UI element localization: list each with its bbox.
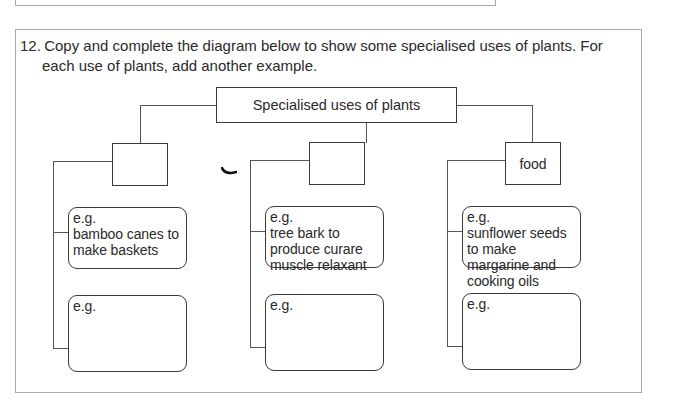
connector-root-left-v xyxy=(140,105,141,143)
example-box-1-2[interactable]: e.g. xyxy=(68,295,187,372)
example-text: sunflower seeds to make margarine and co… xyxy=(467,225,580,289)
question-number: 12. xyxy=(20,36,40,56)
question-line-1: 12. Copy and complete the diagram below … xyxy=(20,36,632,56)
question-prompt: 12. Copy and complete the diagram below … xyxy=(20,36,632,76)
example-text: tree bark to produce curare muscle relax… xyxy=(270,225,383,273)
example-prefix: e.g. xyxy=(467,296,580,312)
example-prefix: e.g. xyxy=(73,298,186,314)
question-line-2: each use of plants, add another example. xyxy=(20,56,632,76)
category-box-food: food xyxy=(505,142,561,185)
category-box-2[interactable] xyxy=(309,142,365,185)
connector-right-ex2 xyxy=(447,346,462,347)
connector-left-spine-top xyxy=(53,161,112,162)
connector-root-middle-v xyxy=(366,123,367,143)
connector-right-spine-top xyxy=(447,160,505,161)
connector-root-right-h xyxy=(457,105,533,106)
question-text-line-1: Copy and complete the diagram below to s… xyxy=(44,37,603,54)
connector-left-ex2 xyxy=(53,348,68,349)
example-box-2-2[interactable]: e.g. xyxy=(265,294,384,371)
connector-middle-ex1 xyxy=(250,231,265,232)
example-box-3-2[interactable]: e.g. xyxy=(462,293,581,370)
connector-left-ex1 xyxy=(53,232,68,233)
root-box: Specialised uses of plants xyxy=(216,87,457,123)
connector-right-ex1 xyxy=(447,231,462,232)
connector-middle-spine xyxy=(250,160,251,348)
example-prefix: e.g. xyxy=(270,209,383,225)
example-prefix: e.g. xyxy=(467,209,580,225)
ink-mark-icon xyxy=(221,167,237,175)
connector-left-spine xyxy=(53,161,54,349)
example-box-2-1: e.g. tree bark to produce curare muscle … xyxy=(265,206,384,268)
connector-middle-ex2 xyxy=(250,347,265,348)
connector-root-right-v xyxy=(532,105,533,143)
example-text: bamboo canes to make baskets xyxy=(73,226,186,258)
example-prefix: e.g. xyxy=(270,297,383,313)
connector-root-left-h xyxy=(140,105,216,106)
category-box-1[interactable] xyxy=(112,143,168,186)
connector-middle-spine-top xyxy=(250,160,309,161)
connector-right-spine xyxy=(447,160,448,347)
example-box-1-1: e.g. bamboo canes to make baskets xyxy=(68,207,187,269)
example-prefix: e.g. xyxy=(73,210,186,226)
previous-question-frame xyxy=(15,0,496,6)
example-box-3-1: e.g. sunflower seeds to make margarine a… xyxy=(462,206,581,268)
